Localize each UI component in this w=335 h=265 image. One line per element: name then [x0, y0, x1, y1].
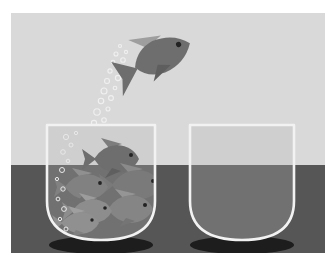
fish-eye — [103, 206, 107, 210]
empty-bowl-lower-water — [184, 165, 302, 245]
jumping-fish-body — [128, 28, 196, 82]
fish-eye — [98, 181, 102, 185]
fish-eye — [129, 153, 133, 157]
illustration-frame — [11, 13, 325, 253]
fish-eye — [143, 203, 147, 207]
jumping-fish — [104, 19, 199, 96]
empty-fishbowl — [184, 125, 302, 245]
scene-graphics — [11, 13, 325, 253]
crowded-fishbowl — [41, 125, 165, 245]
illustration-canvas — [0, 0, 335, 265]
fish-eye — [90, 218, 93, 221]
